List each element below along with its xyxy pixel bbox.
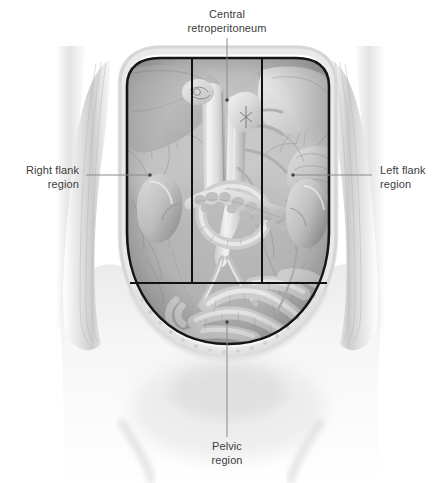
- label-right-flank-region: Right flank region: [0, 164, 79, 191]
- right-flank-leader-dot: [148, 173, 151, 176]
- illustration-canvas: Central retroperitoneum Right flank regi…: [0, 0, 439, 483]
- left-flank-leader-dot: [291, 173, 294, 176]
- central-leader-dot: [225, 98, 228, 101]
- pelvic-leader-dot: [225, 320, 228, 323]
- abdomen-anatomy-illustration: [0, 0, 439, 483]
- label-central-retroperitoneum: Central retroperitoneum: [127, 8, 327, 35]
- label-left-flank-region: Left flank region: [380, 164, 439, 191]
- label-pelvic-region: Pelvic region: [127, 440, 327, 467]
